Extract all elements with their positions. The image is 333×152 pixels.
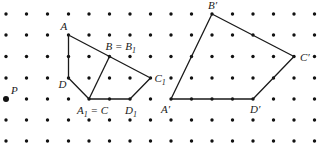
grid-dot [87,118,90,121]
grid-dot [292,118,295,121]
grid-dot [108,139,111,142]
grid-dot [231,139,234,142]
grid-dot [46,139,49,142]
grid-dot [210,33,213,36]
grid-dot [210,139,213,142]
grid-dot [149,97,152,100]
grid-dot [251,139,254,142]
grid-dot [149,33,152,36]
label-ap: A′ [160,103,171,115]
grid-dot [108,118,111,121]
grid-dot [149,118,152,121]
grid-dot [46,12,49,15]
label-dp: D′ [249,103,261,115]
grid-dot [67,12,70,15]
grid-dot [210,118,213,121]
grid-dot [46,33,49,36]
grid-dot [313,97,316,100]
label-d: D [58,78,67,90]
grid-dot [87,12,90,15]
grid-dot [272,97,275,100]
grid-dot [108,12,111,15]
grid-dot [313,33,316,36]
grid-dot [231,33,234,36]
grid-dot [313,118,316,121]
grid-dot [169,139,172,142]
grid-dot [67,118,70,121]
grid-dot [313,139,316,142]
grid-dot [67,139,70,142]
vertex-labels: AB = B1C1DA1 = CD1PA′B′C′D′ [10,0,310,119]
grid-dot [313,12,316,15]
grid-dot [46,118,49,121]
grid-dot [128,76,131,79]
grid-dot [25,118,28,121]
grid-dot [272,118,275,121]
grid-dot [169,76,172,79]
grid-dot [46,97,49,100]
grid-dot [313,76,316,79]
grid-dot [149,55,152,58]
label-cp: C′ [300,51,310,63]
grid-dot [251,55,254,58]
label-p: P [10,84,18,96]
grid-dot [292,139,295,142]
grid-dot [149,139,152,142]
grid-dot [4,118,7,121]
grid-dot [128,118,131,121]
grid-dot [169,55,172,58]
dot-grid-canvas: AB = B1C1DA1 = CD1PA′B′C′D′ [0,0,333,152]
label-b: B = B1 [106,40,136,55]
grid-dot [292,33,295,36]
grid-dot [272,12,275,15]
label-bp: B′ [208,0,218,11]
grid-dot [4,76,7,79]
grid-dot [4,33,7,36]
grid-dot [87,33,90,36]
grid-dot [190,118,193,121]
grid-dot [169,12,172,15]
grid-dot [210,76,213,79]
grid-dot [25,12,28,15]
grid-dot [25,97,28,100]
grid-dot [87,55,90,58]
grid-dot [67,97,70,100]
grid-dot [190,76,193,79]
figures [3,14,294,102]
grid-dot [210,55,213,58]
grid-dot [272,55,275,58]
grid-dot [25,33,28,36]
grid-dot [25,139,28,142]
dilation-diagram: AB = B1C1DA1 = CD1PA′B′C′D′ [0,0,333,152]
grid-dot [108,33,111,36]
grid-dot [190,12,193,15]
grid-dot [4,12,7,15]
grid-dot [231,118,234,121]
center-point-p [3,96,9,102]
grid-dot [128,139,131,142]
grid-dot [128,33,131,36]
grid-dot [4,55,7,58]
grid-dot [87,76,90,79]
label-a1: A1 = C [76,104,109,119]
grid-dot [251,76,254,79]
grid-dot [46,55,49,58]
grid-dot [292,76,295,79]
grid-dot [4,139,7,142]
grid-dot [149,12,152,15]
grid-dot [231,76,234,79]
grid-dot [272,139,275,142]
label-c1: C1 [155,72,166,87]
grid-dot [25,55,28,58]
grid-dot [169,118,172,121]
grid-dot [128,55,131,58]
grid-dot [313,55,316,58]
segment-b-a1 [89,57,110,100]
grid-dot [169,33,172,36]
grid-dot [231,55,234,58]
grid-dot [251,118,254,121]
label-a: A [60,20,68,32]
grid-dot [87,139,90,142]
grid-dot [190,33,193,36]
label-d1: D1 [124,104,137,119]
